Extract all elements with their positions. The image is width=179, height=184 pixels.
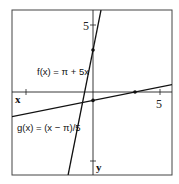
g-x-intercept-point [133, 90, 137, 94]
g-y-intercept-point [91, 99, 95, 103]
plot-frame [12, 10, 172, 175]
f-function-label: f(x) = π + 5x [37, 66, 89, 77]
chart-canvas: 5 5 x y f(x) = π + 5x g(x) = (x − π)/5 [0, 0, 179, 184]
y-axis-label: y [96, 161, 102, 173]
y-tick-label-5: 5 [83, 19, 89, 33]
f-y-intercept-point [91, 48, 95, 52]
x-axis-label: x [15, 93, 21, 105]
g-function-label: g(x) = (x − π)/5 [17, 122, 81, 133]
x-tick-label-5: 5 [156, 97, 162, 111]
